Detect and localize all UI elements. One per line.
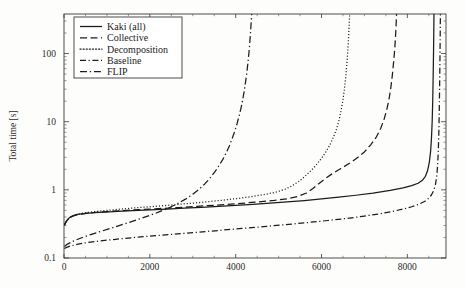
y-tick-label: 0.1 — [44, 253, 56, 263]
legend-label-decomposition: Decomposition — [107, 44, 168, 55]
legend-label-flip: FLIP — [107, 66, 128, 77]
y-tick-label: 100 — [42, 49, 57, 59]
legend-label-collective: Collective — [107, 32, 149, 43]
x-axis-tick-labels: 02000400060008000 — [62, 262, 417, 272]
y-tick-label: 1 — [51, 185, 56, 195]
y-tick-label: 10 — [47, 117, 57, 127]
legend-label-baseline: Baseline — [107, 55, 142, 66]
x-tick-label: 0 — [62, 262, 67, 272]
x-tick-label: 6000 — [312, 262, 331, 272]
y-axis-tick-labels: 0.1110100 — [42, 49, 57, 263]
y-axis-title: Total time [s] — [8, 110, 18, 161]
chart-legend: Kaki (all)CollectiveDecompositionBaselin… — [74, 17, 182, 78]
line-chart-svg: 02000400060008000 0.1110100 Total time [… — [0, 0, 466, 288]
x-tick-label: 4000 — [226, 262, 245, 272]
chart-container: 02000400060008000 0.1110100 Total time [… — [0, 0, 466, 288]
x-tick-label: 8000 — [398, 262, 417, 272]
legend-label-kaki-all: Kaki (all) — [107, 21, 146, 33]
y-axis-ticks — [64, 54, 446, 258]
x-tick-label: 2000 — [140, 262, 159, 272]
